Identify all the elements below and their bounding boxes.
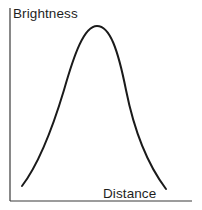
y-axis-label: Brightness bbox=[13, 6, 78, 21]
bell-curve-diagram bbox=[0, 0, 202, 210]
brightness-curve bbox=[22, 26, 166, 189]
x-axis-label: Distance bbox=[103, 186, 156, 201]
